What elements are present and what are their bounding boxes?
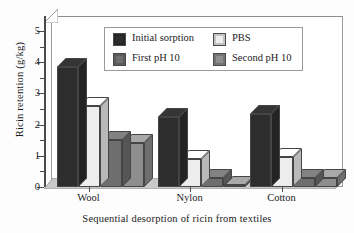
chart-figure: Ricin retention (g/kg) 012345 WoolNylonC… [0,0,354,233]
x-axis-label-wool: Wool [59,192,119,203]
x-axis-tick [190,187,191,192]
bar-front-face [224,185,245,187]
legend-swatch-icon [113,33,126,46]
bar-side-face [122,131,131,187]
bar-wool-initial-sorption [57,67,78,187]
bar-nylon-initial-sorption [158,117,179,187]
y-axis-tick-label-1: 1 [24,151,40,161]
bar-front-face [158,117,179,187]
legend-label: PBS [232,32,251,43]
y-axis-tick-label-2: 2 [24,120,40,130]
y-axis-minor-tick [40,171,44,172]
legend-label: First pH 10 [132,52,180,63]
y-axis-tick-label-3: 3 [24,88,40,98]
y-axis-line [44,16,46,187]
bar-side-face [271,105,280,187]
y-axis-minor-tick [40,47,44,48]
plot-3d-bevel [44,9,58,23]
y-axis-minor-tick [40,140,44,141]
y-axis-tick-label-5: 5 [24,26,40,36]
chart-legend: Initial sorptionPBSFirst pH 10Second pH … [104,27,303,71]
y-axis-tick-label-0: 0 [24,182,40,192]
y-axis-minor-tick [40,109,44,110]
y-axis-minor-tick [40,78,44,79]
bar-cotton-initial-sorption [250,114,271,187]
bar-front-face [250,114,271,187]
y-axis-title: Ricin retention (g/kg) [14,15,25,165]
y-axis-tick-label-4: 4 [24,57,40,67]
bar-front-face [57,67,78,187]
bar-nylon-second-ph-10 [224,185,245,187]
x-axis-label-nylon: Nylon [160,192,220,203]
bar-side-face [78,58,87,187]
bar-side-face [179,108,188,187]
legend-swatch-icon [213,33,226,46]
legend-label: Second pH 10 [232,52,292,63]
bar-side-face [100,97,109,187]
x-axis-label-cotton: Cotton [252,192,312,203]
x-axis-tick [282,187,283,192]
legend-swatch-icon [113,53,126,66]
legend-swatch-icon [213,53,226,66]
x-axis-tick [89,187,90,192]
x-axis-title: Sequential desorption of ricin from text… [0,213,354,224]
legend-label: Initial sorption [132,32,194,43]
